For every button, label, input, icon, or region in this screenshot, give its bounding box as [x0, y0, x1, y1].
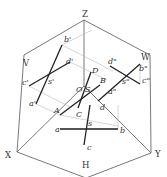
w-b-label: b"	[139, 64, 148, 73]
w-d-label: d"	[108, 57, 117, 66]
h-a-label: a	[55, 125, 60, 134]
v-c-label: c'	[22, 78, 29, 87]
diagram-canvas: Z X Y V W H O D B A C S b' d' c' s' a' d…	[0, 0, 167, 177]
projection-diagram: Z X Y V W H O D B A C S b' d' c' s' a' d…	[0, 0, 167, 177]
plane-v-label: V	[22, 58, 30, 68]
h-s-label: s	[88, 119, 92, 128]
point-B-label: B	[99, 76, 106, 85]
axis-z-label: Z	[82, 9, 88, 19]
plane-w-label: W	[141, 52, 150, 62]
point-A-label: A	[53, 106, 60, 115]
w-a-label: a"	[108, 87, 116, 96]
point-C-label: C	[76, 110, 82, 119]
w-s-label: s"	[122, 77, 130, 86]
h-b-label: b	[120, 126, 125, 135]
w-c-label: c"	[142, 76, 150, 85]
origin-label: O	[76, 85, 83, 94]
axis-x-label: X	[5, 150, 12, 160]
axis-y-label: Y	[154, 149, 161, 159]
point-D-label: D	[91, 66, 99, 75]
plane-frame	[17, 20, 151, 177]
plane-h-label: H	[82, 160, 89, 170]
v-a-label: a'	[29, 99, 36, 108]
v-d-label: d'	[66, 57, 73, 66]
h-d-label: d	[100, 103, 105, 112]
point-S-label: S	[85, 85, 91, 94]
h-c-label: c	[87, 143, 92, 152]
v-b-label: b'	[64, 35, 71, 44]
v-s-label: s'	[48, 77, 54, 86]
